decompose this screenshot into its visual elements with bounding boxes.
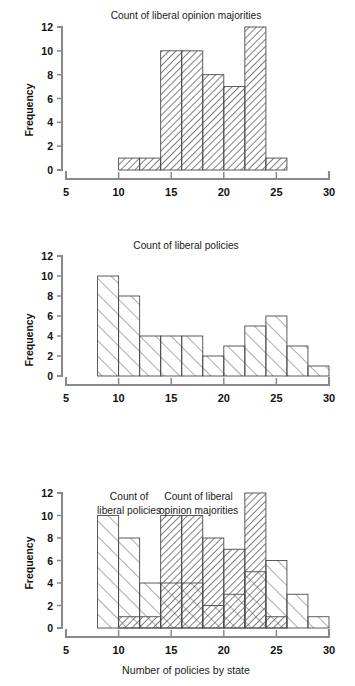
figure-page: Count of liberal opinion majorities Freq… xyxy=(0,0,355,686)
panel-2-bars xyxy=(98,276,329,376)
x-tick-label: 10 xyxy=(112,392,124,404)
y-tick-label: 8 xyxy=(47,69,53,81)
histogram-panel-3: Frequency 024681012 51015202530 Count of… xyxy=(0,455,355,686)
histogram-bar xyxy=(140,158,161,170)
y-tick-label: 6 xyxy=(47,93,53,105)
histogram-bar xyxy=(161,516,182,629)
y-tick-label: 0 xyxy=(47,370,53,382)
x-tick-label: 15 xyxy=(165,186,177,198)
x-tick-label: 20 xyxy=(218,186,230,198)
panel-1-ylabel: Frequency xyxy=(23,83,35,136)
y-tick-label: 12 xyxy=(41,250,53,262)
y-tick-label: 8 xyxy=(47,532,53,544)
x-tick-label: 15 xyxy=(165,644,177,656)
panel-1-x-axis: 51015202530 xyxy=(63,171,335,198)
x-tick-label: 25 xyxy=(270,186,282,198)
x-tick-label: 25 xyxy=(270,392,282,404)
x-tick-label: 30 xyxy=(323,186,335,198)
panel-3-annotations: Count ofliberal policiesCount of liberal… xyxy=(97,491,238,516)
series-annotation-line1: Count of liberal xyxy=(164,491,233,502)
histogram-bar xyxy=(266,617,287,628)
y-tick-label: 10 xyxy=(41,270,53,282)
y-tick-label: 2 xyxy=(47,350,53,362)
panel-2-title: Count of liberal policies xyxy=(133,240,238,251)
histogram-bar xyxy=(182,516,203,629)
histogram-bar xyxy=(266,158,287,170)
panel-3-xlabel: Number of policies by state xyxy=(122,664,250,676)
y-tick-label: 10 xyxy=(41,510,53,522)
panel-3-y-axis: 024681012 xyxy=(41,487,62,634)
panel-3-x-axis: 51015202530 xyxy=(63,629,335,656)
histogram-bar xyxy=(161,51,182,170)
x-tick-label: 5 xyxy=(63,392,69,404)
histogram-bar xyxy=(203,75,224,170)
panel-1-bars xyxy=(119,27,287,170)
y-tick-label: 12 xyxy=(41,487,53,499)
series-annotation-line1: Count of xyxy=(110,491,149,502)
histogram-bar xyxy=(98,516,119,629)
y-tick-label: 10 xyxy=(41,45,53,57)
histogram-bar xyxy=(224,346,245,376)
x-tick-label: 20 xyxy=(218,392,230,404)
panel-1-svg: Count of liberal opinion majorities Freq… xyxy=(0,0,355,228)
x-tick-label: 5 xyxy=(63,644,69,656)
histogram-bar xyxy=(140,336,161,376)
histogram-bar xyxy=(98,276,119,376)
histogram-bar xyxy=(266,316,287,376)
panel-2-ylabel: Frequency xyxy=(23,313,35,366)
histogram-bar xyxy=(224,549,245,628)
histogram-bar xyxy=(119,617,140,628)
histogram-bar xyxy=(119,158,140,170)
x-tick-label: 10 xyxy=(112,644,124,656)
histogram-bar xyxy=(140,617,161,628)
series-annotation-line2: liberal policies xyxy=(97,505,161,516)
histogram-bar xyxy=(308,366,329,376)
x-tick-label: 10 xyxy=(112,186,124,198)
histogram-bar xyxy=(287,594,308,628)
x-tick-label: 5 xyxy=(63,186,69,198)
histogram-bar xyxy=(203,356,224,376)
histogram-bar xyxy=(182,51,203,170)
y-tick-label: 4 xyxy=(47,116,53,128)
histogram-bar xyxy=(119,296,140,376)
panel-2-y-axis: 024681012 xyxy=(41,250,62,382)
y-tick-label: 2 xyxy=(47,600,53,612)
panel-1-y-axis: 024681012 xyxy=(41,21,62,176)
series-annotation-line2: opinion majorities xyxy=(159,505,238,516)
y-tick-label: 8 xyxy=(47,290,53,302)
y-tick-label: 6 xyxy=(47,310,53,322)
panel-3-svg: Frequency 024681012 51015202530 Count of… xyxy=(0,455,355,686)
y-tick-label: 6 xyxy=(47,555,53,567)
y-tick-label: 2 xyxy=(47,140,53,152)
y-tick-label: 12 xyxy=(41,21,53,33)
histogram-bar xyxy=(224,87,245,170)
histogram-bar xyxy=(287,346,308,376)
x-tick-label: 30 xyxy=(323,644,335,656)
panel-2-svg: Count of liberal policies Frequency 0246… xyxy=(0,228,355,455)
histogram-bar xyxy=(182,336,203,376)
x-tick-label: 15 xyxy=(165,392,177,404)
panel-2-x-axis: 51015202530 xyxy=(63,377,335,404)
x-tick-label: 30 xyxy=(323,392,335,404)
y-tick-label: 4 xyxy=(47,330,53,342)
histogram-bar xyxy=(308,617,329,628)
histogram-bar xyxy=(161,336,182,376)
histogram-bar xyxy=(119,538,140,628)
panel-1-title: Count of liberal opinion majorities xyxy=(111,10,262,21)
y-tick-label: 0 xyxy=(47,622,53,634)
histogram-bar xyxy=(245,493,266,628)
y-tick-label: 4 xyxy=(47,577,53,589)
x-tick-label: 20 xyxy=(218,644,230,656)
histogram-bar xyxy=(245,326,266,376)
histogram-bar xyxy=(203,538,224,628)
histogram-panel-2: Count of liberal policies Frequency 0246… xyxy=(0,228,355,455)
histogram-panel-1: Count of liberal opinion majorities Freq… xyxy=(0,0,355,228)
y-tick-label: 0 xyxy=(47,164,53,176)
x-tick-label: 25 xyxy=(270,644,282,656)
panel-3-ylabel: Frequency xyxy=(23,536,35,589)
histogram-bar xyxy=(245,27,266,170)
